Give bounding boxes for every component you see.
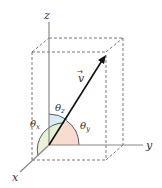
vector-diagram: z y x v → θz θx θy: [0, 0, 162, 188]
y-axis-label: y: [145, 139, 153, 152]
vector-arrow-accent-icon: →: [77, 68, 83, 76]
theta-z-label: θz: [55, 102, 65, 115]
theta-x-label: θx: [30, 118, 40, 131]
theta-y-label: θy: [80, 120, 91, 133]
z-axis-label: z: [43, 9, 50, 22]
x-axis-label: x: [12, 171, 19, 184]
vector-arrowhead-icon: [98, 55, 106, 64]
x-axis: [20, 145, 49, 172]
